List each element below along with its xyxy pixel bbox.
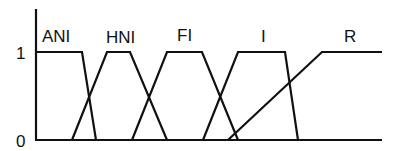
y-tick-zero: 0 bbox=[16, 133, 25, 150]
label-r: R bbox=[344, 28, 356, 45]
label-ani: ANI bbox=[42, 28, 70, 45]
ani-membership-curve bbox=[36, 52, 96, 140]
hni-membership-curve bbox=[72, 52, 167, 140]
label-fi: FI bbox=[177, 27, 192, 44]
i-membership-curve bbox=[203, 52, 298, 140]
r-membership-curve bbox=[228, 52, 382, 140]
membership-diagram bbox=[0, 0, 399, 151]
y-tick-one: 1 bbox=[16, 45, 25, 62]
label-i: I bbox=[261, 28, 266, 45]
label-hni: HNI bbox=[106, 29, 135, 46]
